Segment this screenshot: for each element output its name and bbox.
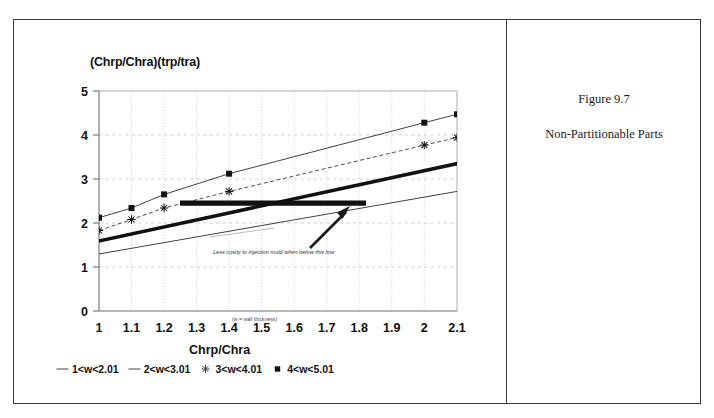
y-tick-label: 0 <box>81 305 88 319</box>
wall-thickness-note: (w = wall thickness) <box>232 316 277 322</box>
y-tick-label: 4 <box>81 129 88 143</box>
figure-number: Figure 9.7 <box>578 92 629 107</box>
x-tick-label: 1.4 <box>220 321 237 335</box>
chart-legend: 1<w<2.01 2<w<3.01 <box>56 364 476 375</box>
x-tick-label: 1.9 <box>383 321 400 335</box>
legend-item-1w201[interactable]: 1<w<2.01 <box>56 364 119 375</box>
y-tick-label: 3 <box>81 173 88 187</box>
y-tick-label: 5 <box>81 85 88 99</box>
y-tick-label: 2 <box>81 217 88 231</box>
asterisk-marker-icon <box>199 364 212 374</box>
series-line-3w401 <box>99 138 457 231</box>
chart-svg: 0 1 2 3 4 5 1 1.1 1.2 1.3 1.4 1.5 <box>14 20 506 360</box>
figure-page: (Chrp/Chra)(trp/tra) <box>0 0 714 418</box>
caption-panel: Figure 9.7 Non-Partitionable Parts <box>506 20 702 403</box>
x-tick-label: 2.1 <box>448 321 465 335</box>
callout-arrow <box>310 206 350 248</box>
legend-label: 4<w<5.01 <box>287 364 334 375</box>
chart-panel: (Chrp/Chra)(trp/tra) <box>14 20 506 403</box>
x-tick-label: 1 <box>96 321 103 335</box>
plot-area: 0 1 2 3 4 5 1 1.1 1.2 1.3 1.4 1.5 <box>14 20 506 360</box>
x-tick-label: 1.5 <box>253 321 270 335</box>
figure-title: Non-Partitionable Parts <box>545 127 663 142</box>
x-axis-title: Chrp/Chra <box>189 343 250 357</box>
legend-label: 2<w<3.01 <box>144 364 191 375</box>
y-tick-labels: 0 1 2 3 4 5 <box>81 85 88 319</box>
legend-item-4w501[interactable]: 4<w<5.01 <box>271 364 334 375</box>
square-marker-icon <box>271 364 284 374</box>
legend-item-3w401[interactable]: 3<w<4.01 <box>199 364 262 375</box>
x-tick-label: 1.7 <box>318 321 335 335</box>
y-tick-marks <box>93 91 99 311</box>
y-tick-label: 1 <box>81 261 88 275</box>
callout-label: Less costly to injection mold when below… <box>213 249 334 255</box>
legend-item-2w301[interactable]: 2<w<3.01 <box>128 364 191 375</box>
legend-label: 1<w<2.01 <box>72 364 119 375</box>
x-tick-label: 1.6 <box>286 321 303 335</box>
x-tick-label: 1.8 <box>351 321 368 335</box>
legend-label: 3<w<4.01 <box>215 364 262 375</box>
x-tick-labels: 1 1.1 1.2 1.3 1.4 1.5 1.6 1.7 1.8 1.9 2 … <box>96 321 466 335</box>
x-tick-label: 1.3 <box>188 321 205 335</box>
x-tick-label: 1.2 <box>155 321 172 335</box>
figure-frame: (Chrp/Chra)(trp/tra) <box>13 19 701 404</box>
x-tick-label: 1.1 <box>123 321 140 335</box>
line-marker-icon <box>56 364 69 374</box>
series-markers-3w401 <box>95 133 461 234</box>
x-tick-label: 2 <box>421 321 428 335</box>
line-marker-icon <box>128 364 141 374</box>
